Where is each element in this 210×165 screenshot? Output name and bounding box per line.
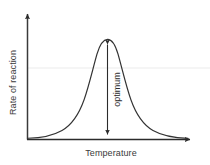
chart-canvas [0,0,210,165]
chart-figure: Rate of reaction Temperature optimum [0,0,210,165]
x-axis-label: Temperature [27,149,195,158]
y-axis-label: Rate of reaction [9,0,21,165]
optimum-annotation-label: optimum [113,40,124,139]
